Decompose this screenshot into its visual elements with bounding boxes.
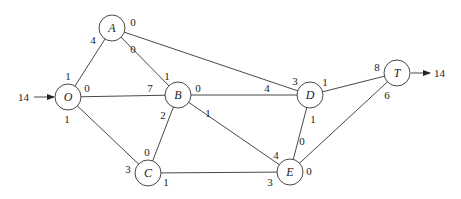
label-OB-at-B: 7 [147, 82, 153, 94]
network-flow-diagram: 14 14 O A B C D E T [0, 0, 461, 199]
label-AD-at-D: 3 [292, 75, 298, 87]
node-B: B [165, 82, 191, 108]
edges [68, 28, 397, 173]
node-O: O [55, 84, 81, 110]
label-OC-at-C: 3 [125, 163, 131, 175]
label-BE-at-E: 4 [273, 149, 279, 161]
node-O-label: O [64, 90, 73, 104]
nodes: O A B C D E T [55, 15, 410, 186]
label-DT-at-D: 1 [322, 76, 328, 88]
edge-O-B [68, 95, 178, 97]
node-D: D [297, 82, 323, 108]
node-T: T [384, 60, 410, 86]
node-B-label: B [174, 88, 182, 102]
edge-C-E [148, 172, 290, 173]
label-CE-at-C: 1 [163, 176, 169, 188]
label-AB-at-B: 1 [164, 70, 170, 82]
node-D-label: D [305, 88, 315, 102]
node-A: A [99, 15, 125, 41]
label-ET-at-E: 0 [306, 165, 312, 177]
label-BD-at-B: 0 [195, 82, 201, 94]
edge-A-D [112, 28, 310, 95]
label-OB-at-O: 0 [84, 82, 90, 94]
io-arrows: 14 14 [18, 67, 446, 103]
label-OA-at-O: 1 [65, 70, 71, 82]
sink-outflow-label: 14 [434, 67, 446, 79]
label-CE-at-E: 3 [267, 176, 273, 188]
label-BD-at-D: 4 [264, 82, 270, 94]
label-OC-at-O: 1 [64, 113, 70, 125]
edge-A-B [112, 28, 178, 95]
label-BC-at-C: 0 [144, 146, 150, 158]
node-A-label: A [107, 21, 116, 35]
node-C: C [135, 160, 161, 186]
edge-labels: 1 4 0 7 1 3 0 1 0 3 0 4 2 0 1 4 1 3 1 8 … [64, 16, 390, 188]
edge-O-C [68, 97, 148, 173]
label-ET-at-T: 6 [384, 89, 390, 101]
node-E: E [277, 159, 303, 185]
label-OA-at-A: 4 [90, 34, 96, 46]
label-BE-at-B: 1 [205, 107, 211, 119]
source-inflow-label: 14 [18, 91, 30, 103]
label-AD-at-A: 0 [130, 16, 136, 28]
label-DE-at-D: 1 [310, 113, 316, 125]
node-C-label: C [144, 166, 153, 180]
label-DT-at-T: 8 [374, 61, 380, 73]
label-DE-at-E: 0 [299, 135, 305, 147]
node-E-label: E [285, 165, 294, 179]
label-AB-at-A: 0 [130, 43, 136, 55]
label-BC-at-B: 2 [160, 109, 166, 121]
